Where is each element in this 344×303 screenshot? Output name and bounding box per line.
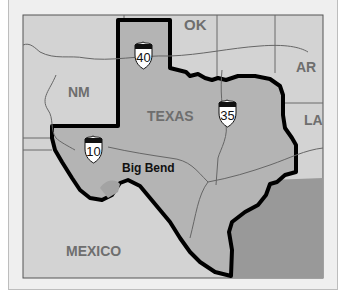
label-la: LA — [304, 112, 323, 128]
label-ok: OK — [184, 16, 207, 33]
label-texas: TEXAS — [147, 108, 194, 124]
texas-map: OK AR NM LA TEXAS MEXICO Big Bend 40 35 … — [0, 0, 344, 303]
label-mexico: MEXICO — [66, 243, 121, 259]
shield-number: 10 — [86, 144, 100, 159]
interstate-10-shield-icon: 10 — [85, 136, 102, 163]
interstate-40-shield-icon: 40 — [135, 42, 152, 69]
interstate-35-shield-icon: 35 — [219, 100, 236, 127]
shield-number: 40 — [136, 50, 150, 65]
label-big-bend: Big Bend — [122, 161, 175, 175]
label-nm: NM — [68, 84, 90, 100]
shield-number: 35 — [220, 108, 234, 123]
label-ar: AR — [296, 59, 316, 75]
